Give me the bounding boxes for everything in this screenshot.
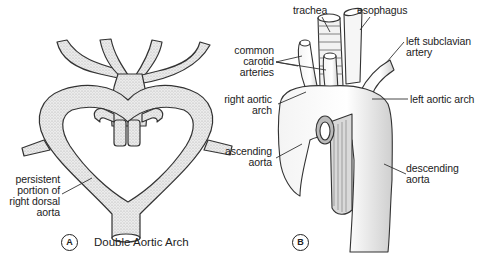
- panel-a-caption: Double Aortic Arch: [94, 236, 189, 248]
- label-esophagus: esophagus: [357, 5, 407, 16]
- label-line: aorta: [2, 207, 60, 218]
- label-descending-aorta: descending aorta: [406, 163, 459, 185]
- label-left-subclavian: left subclavian artery: [406, 36, 471, 58]
- label-line: aorta: [214, 157, 272, 168]
- label-ascending-aorta: ascending aorta: [214, 146, 272, 168]
- label-common-carotid: common carotid arteries: [218, 45, 274, 78]
- label-trachea: trachea: [293, 5, 327, 16]
- panel-a-tag: A: [61, 234, 78, 251]
- label-line: artery: [406, 47, 471, 58]
- label-persistent-dorsal-aorta: persistent portion of right dorsal aorta: [2, 174, 60, 218]
- panel-b-tag: B: [292, 234, 309, 251]
- label-right-aortic-arch: right aortic arch: [216, 94, 272, 116]
- label-line: arch: [216, 105, 272, 116]
- label-left-aortic-arch: left aortic arch: [410, 94, 474, 105]
- aortic-anatomy-drawing: [279, 7, 395, 252]
- label-line: arteries: [218, 67, 274, 78]
- label-line: aorta: [406, 174, 459, 185]
